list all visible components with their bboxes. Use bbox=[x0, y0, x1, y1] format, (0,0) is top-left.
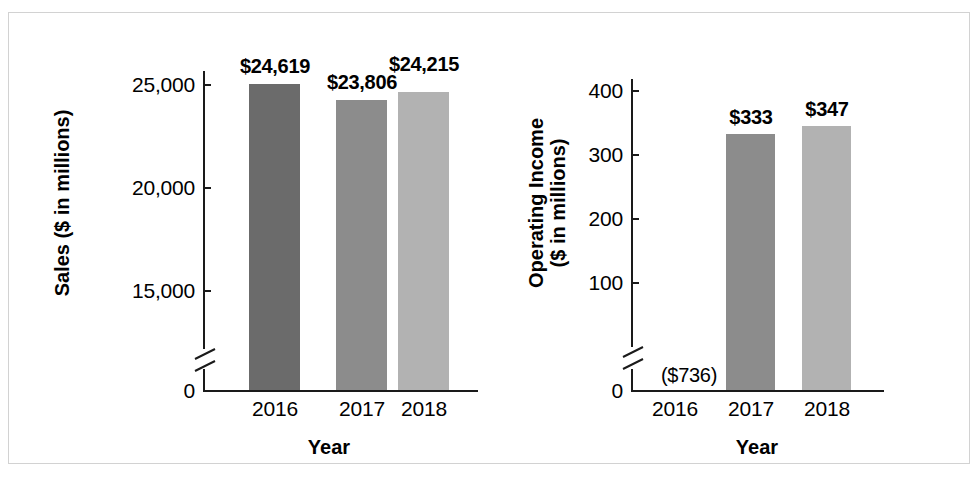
sales-x-axis-line bbox=[203, 390, 478, 392]
sales-bar-2016 bbox=[249, 84, 300, 390]
income-axis-break-icon bbox=[619, 341, 653, 377]
sales-y-axis-line bbox=[203, 71, 205, 381]
income-y-ticklabel-100: 100 bbox=[541, 271, 623, 295]
sales-y-ticklabel-25000: 25,000 bbox=[87, 73, 195, 97]
income-y-tick-400 bbox=[631, 90, 639, 92]
income-negative-value-note-2016: ($736) bbox=[661, 364, 717, 387]
income-x-category-2018: 2018 bbox=[767, 397, 887, 421]
sales-y-axis-title: Sales ($ in millions) bbox=[51, 63, 74, 343]
sales-bar-label-2018: $24,215 bbox=[358, 53, 490, 76]
income-y-ticklabel-200: 200 bbox=[541, 207, 623, 231]
income-x-axis-line bbox=[631, 390, 884, 392]
scan-artifact bbox=[0, 0, 979, 11]
income-y-axis-stub bbox=[631, 369, 633, 391]
figure-page: Sales ($ in millions) 25,000 20,000 bbox=[0, 0, 979, 479]
income-bar-label-2018: $347 bbox=[777, 98, 877, 121]
sales-y-tick-20000 bbox=[203, 187, 211, 189]
income-bar-2018 bbox=[802, 126, 851, 390]
sales-x-axis-title: Year bbox=[229, 436, 429, 459]
sales-y-ticklabel-15000: 15,000 bbox=[87, 279, 195, 303]
income-y-tick-300 bbox=[631, 154, 639, 156]
sales-y-tick-25000 bbox=[203, 84, 211, 86]
income-y-ticklabel-0: 0 bbox=[541, 379, 623, 403]
income-y-axis-line bbox=[631, 79, 633, 347]
sales-y-ticklabel-20000: 20,000 bbox=[87, 176, 195, 200]
figure-frame: Sales ($ in millions) 25,000 20,000 bbox=[8, 12, 970, 464]
income-y-ticklabel-300: 300 bbox=[541, 143, 623, 167]
income-y-ticklabel-400: 400 bbox=[541, 79, 623, 103]
sales-bar-2017 bbox=[336, 100, 387, 390]
operating-income-bar-chart: Operating Income($ in millions) 400 bbox=[479, 13, 971, 465]
sales-bar-2018 bbox=[398, 92, 449, 390]
sales-axis-break-icon bbox=[191, 343, 225, 379]
income-y-axis-title: Operating Income($ in millions) bbox=[525, 63, 570, 343]
income-y-tick-100 bbox=[631, 282, 639, 284]
sales-x-category-2018: 2018 bbox=[364, 397, 484, 421]
sales-y-tick-15000 bbox=[203, 290, 211, 292]
sales-y-axis-stub bbox=[203, 369, 205, 391]
income-y-tick-200 bbox=[631, 218, 639, 220]
income-bar-2017 bbox=[726, 134, 775, 390]
sales-y-ticklabel-0: 0 bbox=[87, 379, 195, 403]
sales-bar-chart: Sales ($ in millions) 25,000 20,000 bbox=[9, 13, 499, 465]
income-x-axis-title: Year bbox=[657, 436, 857, 459]
